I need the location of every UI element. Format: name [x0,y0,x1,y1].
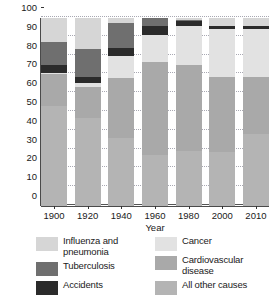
bar-segment [75,87,101,118]
bar-segment [243,18,269,26]
bar-segment [176,26,202,65]
legend-item: Accidents [36,280,149,295]
legend-label: Cancer [182,236,212,247]
bar-segment [108,23,134,48]
bar-group: 1900192019401960198020002010 [41,18,269,206]
bar-segment [243,29,269,77]
legend-item: Tuberculosis [36,261,149,276]
y-axis-tick-label: 50 [3,96,41,107]
bar-segment [75,18,101,49]
bar-column: 1980 [176,18,202,206]
bar-segment [41,65,67,73]
x-axis-tick-label: 1960 [144,206,165,221]
legend-label: Tuberculosis [63,261,115,272]
x-axis-tick-label: 1900 [43,206,64,221]
chart-figure: Percent of all deaths 010203040506070809… [0,0,274,299]
bar-segment [243,77,269,133]
bar-segment [108,78,134,138]
legend-swatch [155,237,177,251]
y-axis-tick-label: 30 [3,133,41,144]
x-axis-label: Year [41,222,269,233]
bar-segment [75,49,101,77]
bar-segment [41,42,67,65]
bar-segment [142,155,168,206]
bar-segment [142,35,168,62]
bar-stack [108,18,134,206]
y-axis-tick-label: 0 [3,190,41,201]
y-axis-tick-label: 90 [3,20,41,31]
legend-item: Cardiovascular disease [155,255,268,276]
bar-stack [75,18,101,206]
bar-stack [243,18,269,206]
y-axis-tick-label: 60 [3,77,41,88]
chart-legend: Influenza and pneumoniaTuberculosisAccid… [36,236,268,295]
plot-area: 0102030405060708090100 19001920194019601… [41,18,269,206]
bar-stack [209,18,235,206]
bar-segment [108,48,134,56]
y-axis-tick-label: 40 [3,114,41,125]
bar-column: 1920 [75,18,101,206]
bar-segment [209,18,235,26]
legend-swatch [36,281,58,295]
bar-column: 2010 [243,18,269,206]
legend-item: All other causes [155,280,268,295]
bar-segment [209,77,235,152]
bar-stack [142,18,168,206]
legend-swatch [155,281,177,295]
legend-item: Influenza and pneumonia [36,236,149,257]
bar-segment [209,152,235,206]
x-axis-tick-label: 2010 [245,206,266,221]
bar-segment [243,134,269,206]
bar-segment [108,138,134,206]
bar-segment [142,62,168,155]
bar-column: 1940 [108,18,134,206]
legend-column-right: CancerCardiovascular diseaseAll other ca… [155,236,268,295]
bar-segment [209,29,235,77]
legend-label: All other causes [182,280,247,291]
y-axis-tick-label: 10 [3,171,41,182]
bar-stack [176,18,202,206]
bar-segment [41,18,67,42]
legend-item: Cancer [155,236,268,251]
legend-label: Influenza and pneumonia [63,236,149,257]
y-axis-tick-mark [41,7,44,8]
bar-segment [142,18,168,26]
bar-column: 1960 [142,18,168,206]
bar-segment [41,74,67,106]
y-axis-tick-label: 70 [3,58,41,69]
bar-segment [41,106,67,206]
x-axis-tick-label: 1940 [111,206,132,221]
y-axis-tick-label: 80 [3,39,41,50]
legend-column-left: Influenza and pneumoniaTuberculosisAccid… [36,236,149,295]
legend-label: Cardiovascular disease [182,255,268,276]
y-axis-tick-label: 100 [3,2,41,13]
bar-segment [176,151,202,206]
legend-swatch [36,262,58,276]
legend-label: Accidents [63,280,103,291]
bar-segment [75,118,101,206]
legend-swatch [36,237,58,251]
x-axis-tick-label: 2000 [212,206,233,221]
bar-column: 1900 [41,18,67,206]
bar-segment [108,56,134,79]
bar-segment [142,26,168,35]
y-axis-tick-label: 20 [3,152,41,163]
bar-segment [176,65,202,151]
bar-stack [41,18,67,206]
x-axis-tick-label: 1920 [77,206,98,221]
bar-column: 2000 [209,18,235,206]
legend-swatch [155,256,177,270]
x-axis-tick-label: 1980 [178,206,199,221]
